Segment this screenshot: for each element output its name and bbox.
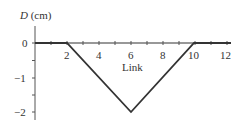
x-tick-label: 4 bbox=[96, 49, 102, 61]
x-axis-label: Link bbox=[122, 61, 143, 73]
x-tick-label: 12 bbox=[220, 49, 231, 61]
x-tick-label: 6 bbox=[128, 49, 134, 61]
x-tick-label: 8 bbox=[160, 49, 166, 61]
chart: D (cm) 0 −1 −2 2 4 6 8 10 12 Link bbox=[0, 0, 247, 134]
y-axis-label: D (cm) bbox=[19, 9, 52, 22]
y-tick-label: −1 bbox=[14, 72, 26, 84]
y-tick-label: 0 bbox=[22, 37, 28, 49]
x-tick-label: 2 bbox=[64, 49, 70, 61]
x-tick-label: 10 bbox=[188, 49, 200, 61]
y-tick-label: −2 bbox=[14, 106, 26, 118]
